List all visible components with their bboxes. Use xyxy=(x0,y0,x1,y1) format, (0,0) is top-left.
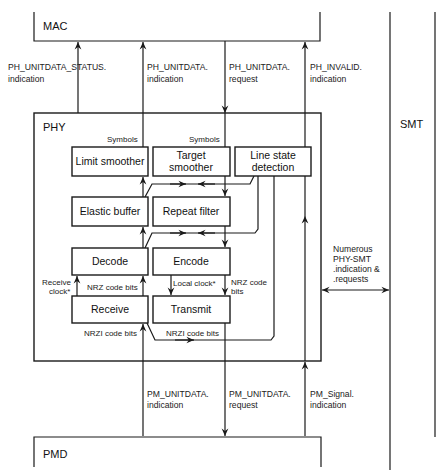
svg-text:Elastic buffer: Elastic buffer xyxy=(80,205,141,217)
svg-text:Receive: Receive xyxy=(91,303,129,315)
local-clock-label: Local clock* xyxy=(173,279,216,288)
svg-text:detection: detection xyxy=(252,161,295,173)
line-state-detection-block: Line state detection xyxy=(235,147,311,176)
elastic-buffer-block: Elastic buffer xyxy=(72,197,148,226)
svg-text:Limit smoother: Limit smoother xyxy=(76,155,145,167)
primitive-label: indication xyxy=(8,74,45,84)
phy-pmd-primitives: PM_UNITDATA. indication PM_UNITDATA. req… xyxy=(147,389,354,410)
phy-blocks: Limit smoother Target smoother Line stat… xyxy=(72,147,311,323)
mac-label: MAC xyxy=(43,20,68,32)
primitive-label: request xyxy=(229,74,258,84)
nrz-code-bits-label: NRZ code bits xyxy=(87,283,138,292)
primitive-label: indication xyxy=(147,400,184,410)
primitive-label: PM_UNITDATA. xyxy=(229,389,291,399)
primitive-label: indication xyxy=(310,400,347,410)
svg-text:Decode: Decode xyxy=(92,255,128,267)
receive-clock-label: clock* xyxy=(49,287,70,296)
primitive-label: PM_Signal. xyxy=(310,389,354,399)
primitive-label: PH_UNITDATA. xyxy=(229,62,290,72)
primitive-label: request xyxy=(229,400,258,410)
svg-text:smoother: smoother xyxy=(169,161,213,173)
fddi-phy-diagram: MAC SMT PMD PH_UNITDATA_STATUS. indicati… xyxy=(0,0,447,474)
pmd-layer: PMD xyxy=(34,437,321,467)
symbols-label: Symbols xyxy=(107,135,138,144)
svg-text:.indication &: .indication & xyxy=(333,264,380,274)
nrzi-code-bits-label: NRZI code bits xyxy=(166,329,219,338)
repeat-filter-block: Repeat filter xyxy=(153,197,230,226)
symbols-label: Symbols xyxy=(189,135,220,144)
receive-clock-label: Receive xyxy=(42,278,71,287)
primitive-label: PH_UNITDATA. xyxy=(147,62,208,72)
primitive-label: PH_UNITDATA_STATUS. xyxy=(8,62,106,72)
limit-smoother-block: Limit smoother xyxy=(72,147,148,176)
target-smoother-block: Target smoother xyxy=(153,147,230,176)
primitive-label: PM_UNITDATA. xyxy=(147,389,209,399)
smt-interface-label: Numerous PHY-SMT .indication & .requests xyxy=(333,244,380,284)
svg-text:Line state: Line state xyxy=(250,149,296,161)
smt-label: SMT xyxy=(400,118,424,130)
decode-block: Decode xyxy=(72,248,148,275)
svg-text:Target: Target xyxy=(176,149,205,161)
svg-text:Transmit: Transmit xyxy=(171,303,212,315)
svg-text:PHY-SMT: PHY-SMT xyxy=(333,254,372,264)
phy-label: PHY xyxy=(43,121,66,133)
svg-text:.requests: .requests xyxy=(333,274,368,284)
nrz-code-bits-label: NRZ code xyxy=(231,278,268,287)
smt-layer: SMT xyxy=(390,12,435,470)
pmd-label: PMD xyxy=(43,448,68,460)
encode-block: Encode xyxy=(153,248,230,275)
transmit-block: Transmit xyxy=(153,296,230,323)
primitive-label: indication xyxy=(310,74,347,84)
svg-text:Repeat filter: Repeat filter xyxy=(163,205,220,217)
mac-layer: MAC xyxy=(34,12,320,41)
receive-block: Receive xyxy=(72,296,148,323)
svg-text:Numerous: Numerous xyxy=(333,244,373,254)
svg-text:Encode: Encode xyxy=(173,255,209,267)
nrz-code-bits-label: bits xyxy=(231,287,243,296)
primitive-label: indication xyxy=(147,74,184,84)
nrzi-code-bits-label: NRZI code bits xyxy=(84,329,137,338)
primitive-label: PH_INVALID. xyxy=(310,62,362,72)
